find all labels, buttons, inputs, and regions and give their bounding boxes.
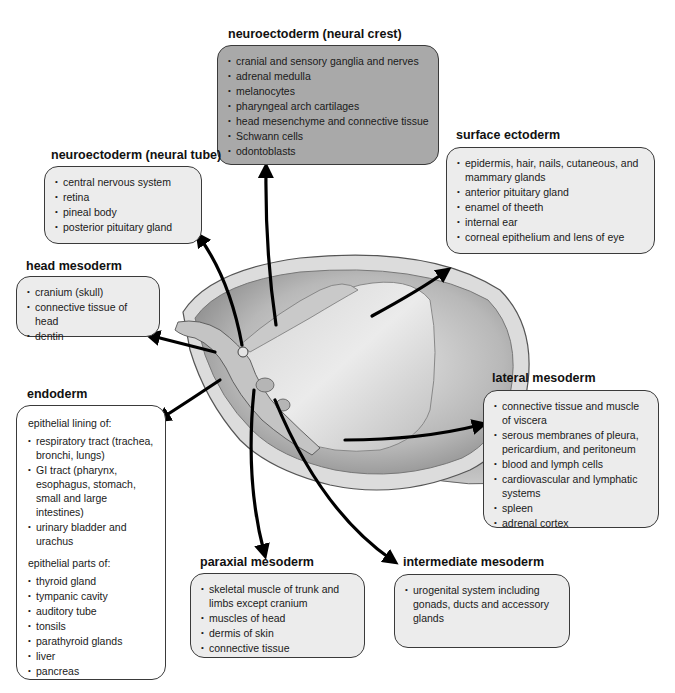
list-item: parathyroid glands — [28, 634, 157, 648]
list-item: head mesenchyme and connective tissue — [228, 114, 430, 128]
list-item: internal ear — [457, 215, 646, 229]
list-neural-tube: central nervous system retina pineal bod… — [55, 175, 193, 234]
endoderm-subheading-lining: epithelial lining of: — [28, 416, 157, 430]
list-item: Schwann cells — [228, 129, 430, 143]
list-item: cranium (skull) — [27, 285, 151, 299]
list-item: connective tissue — [201, 641, 356, 655]
list-item: anterior pituitary gland — [457, 185, 646, 199]
list-item: dentin — [27, 329, 151, 343]
list-item: tonsils — [28, 619, 157, 633]
box-neural-tube: central nervous system retina pineal bod… — [44, 166, 202, 244]
list-item: pancreas — [28, 664, 157, 678]
list-item: spleen — [494, 501, 650, 515]
somite — [256, 378, 274, 392]
list-item: corneal epithelium and lens of eye — [457, 230, 646, 244]
list-item: connective tissue of head — [27, 300, 151, 328]
box-lateral-mesoderm: connective tissue and muscle of viscera … — [483, 390, 659, 528]
box-head-mesoderm: cranium (skull) connective tissue of hea… — [16, 276, 160, 337]
list-item: enamel of theeth — [457, 200, 646, 214]
list-item: central nervous system — [55, 175, 193, 189]
list-endoderm-parts: thyroid gland tympanic cavity auditory t… — [28, 574, 157, 678]
list-intermediate-mesoderm: urogenital system including gonads, duct… — [405, 583, 561, 625]
list-item: pharyngeal arch cartilages — [228, 99, 430, 113]
germ-layer-diagram: neuroectoderm (neural crest) cranial and… — [0, 0, 675, 693]
box-surface-ectoderm: epidermis, hair, nails, cutaneous, and m… — [446, 147, 655, 254]
list-item: tympanic cavity — [28, 589, 157, 603]
list-item: odontoblasts — [228, 144, 430, 158]
title-neural-crest: neuroectoderm (neural crest) — [228, 27, 402, 41]
list-item: auditory tube — [28, 604, 157, 618]
title-surface-ectoderm: surface ectoderm — [456, 128, 560, 142]
list-item: blood and lymph cells — [494, 457, 650, 471]
list-surface-ectoderm: epidermis, hair, nails, cutaneous, and m… — [457, 156, 646, 244]
list-item: adrenal cortex — [494, 516, 650, 530]
list-item: thyroid gland — [28, 574, 157, 588]
list-endoderm-lining: respiratory tract (trachea, bronchi, lun… — [28, 434, 157, 548]
list-item: adrenal medulla — [228, 69, 430, 83]
title-head-mesoderm: head mesoderm — [26, 259, 122, 273]
list-paraxial-mesoderm: skeletal muscle of trunk and limbs excep… — [201, 582, 356, 655]
endoderm-subheading-parts: epithelial parts of: — [28, 556, 157, 570]
title-endoderm: endoderm — [27, 387, 87, 401]
list-item: muscles of head — [201, 611, 356, 625]
list-item: urogenital system including gonads, duct… — [405, 583, 561, 625]
box-endoderm: epithelial lining of: respiratory tract … — [16, 405, 166, 680]
box-paraxial-mesoderm: skeletal muscle of trunk and limbs excep… — [190, 573, 365, 658]
list-item: pineal body — [55, 205, 193, 219]
list-item: connective tissue and muscle of viscera — [494, 399, 650, 427]
title-paraxial-mesoderm: paraxial mesoderm — [200, 555, 314, 569]
list-item: respiratory tract (trachea, bronchi, lun… — [28, 434, 157, 462]
box-intermediate-mesoderm: urogenital system including gonads, duct… — [394, 574, 570, 648]
list-item: dermis of skin — [201, 626, 356, 640]
list-head-mesoderm: cranium (skull) connective tissue of hea… — [27, 285, 151, 343]
list-item: melanocytes — [228, 84, 430, 98]
list-neural-crest: cranial and sensory ganglia and nerves a… — [228, 54, 430, 158]
list-item: liver — [28, 649, 157, 663]
title-neural-tube: neuroectoderm (neural tube) — [51, 148, 221, 162]
list-item: posterior pituitary gland — [55, 220, 193, 234]
list-item: urinary bladder and urachus — [28, 520, 157, 548]
list-lateral-mesoderm: connective tissue and muscle of viscera … — [494, 399, 650, 530]
list-item: retina — [55, 190, 193, 204]
list-item: serous membranes of pleura, pericardium,… — [494, 428, 650, 456]
list-item: skeletal muscle of trunk and limbs excep… — [201, 582, 356, 610]
title-lateral-mesoderm: lateral mesoderm — [492, 371, 596, 385]
list-item: epidermis, hair, nails, cutaneous, and m… — [457, 156, 646, 184]
list-item: cranial and sensory ganglia and nerves — [228, 54, 430, 68]
list-item: GI tract (pharynx, esophagus, stomach, s… — [28, 463, 157, 519]
title-intermediate-mesoderm: intermediate mesoderm — [403, 555, 544, 569]
neural-groove — [238, 347, 248, 357]
list-item: cardiovascular and lymphatic systems — [494, 472, 650, 500]
box-neural-crest: cranial and sensory ganglia and nerves a… — [217, 45, 439, 165]
